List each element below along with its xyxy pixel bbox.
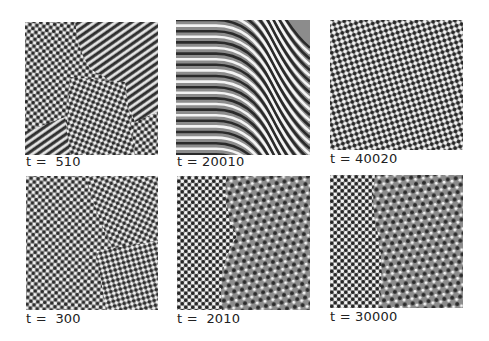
time-label-t510: t = 510 xyxy=(26,155,81,169)
square-stripe-texture xyxy=(25,22,158,155)
disordered-square-texture xyxy=(26,176,158,310)
pattern-panel-t300 xyxy=(26,176,158,310)
time-label-t30000: t = 30000 xyxy=(330,310,397,324)
square-hexagon-texture xyxy=(177,176,310,310)
curved-stripe-texture xyxy=(176,20,310,155)
pattern-panel-t20010 xyxy=(176,20,310,155)
pattern-panel-t510 xyxy=(25,22,158,155)
time-label-t2010: t = 2010 xyxy=(177,312,240,326)
pattern-panel-t40020 xyxy=(330,20,463,150)
pattern-panel-t30000 xyxy=(330,175,463,308)
time-label-t40020: t = 40020 xyxy=(330,152,397,166)
diagonal-square-texture xyxy=(330,20,463,150)
time-label-t300: t = 300 xyxy=(26,312,81,326)
time-label-t20010: t = 20010 xyxy=(177,155,244,169)
square-hexagon-front-texture xyxy=(330,175,463,308)
pattern-panel-t2010 xyxy=(177,176,310,310)
